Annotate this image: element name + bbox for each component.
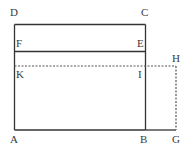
label-F: F	[16, 37, 22, 49]
label-A: A	[10, 133, 18, 145]
label-E: E	[137, 37, 144, 49]
geometry-diagram: D C F E H K I A B G	[0, 0, 193, 153]
label-D: D	[10, 6, 18, 18]
label-H: H	[172, 52, 180, 64]
label-I: I	[138, 68, 142, 80]
label-K: K	[16, 68, 24, 80]
label-C: C	[141, 6, 148, 18]
label-B: B	[140, 133, 147, 145]
label-G: G	[172, 133, 180, 145]
